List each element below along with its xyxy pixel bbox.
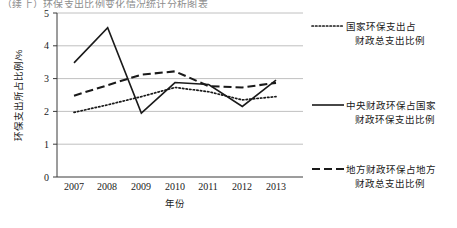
y-tick-label: 1 bbox=[44, 139, 49, 150]
legend: 国家环保支出占 财政总支出比例 中央财政环保占国家 财政环保支出比例 地方财政环… bbox=[312, 21, 436, 189]
x-tick-label: 2010 bbox=[165, 181, 185, 192]
y-tick-label: 2 bbox=[44, 106, 49, 117]
series-line-national-share bbox=[74, 87, 276, 112]
series-lines bbox=[74, 28, 276, 113]
legend-label-line1: 地方财政环保占地方 bbox=[346, 164, 436, 175]
x-tick-label: 2008 bbox=[97, 181, 117, 192]
x-tick-label: 2013 bbox=[266, 181, 286, 192]
x-tick-label: 2007 bbox=[64, 181, 84, 192]
y-tick-label: 4 bbox=[44, 40, 49, 51]
y-tick-label: 0 bbox=[44, 172, 49, 183]
legend-label-line2: 财政环保支出比例 bbox=[355, 114, 435, 125]
x-tick-label: 2012 bbox=[232, 181, 252, 192]
y-tick-label: 3 bbox=[44, 73, 49, 84]
gridlines bbox=[57, 13, 303, 144]
chart-figure: （续上）环保支出比例变化情况统计分析图表 5 4 3 2 1 bbox=[0, 0, 457, 228]
legend-label-line2: 财政总支出比例 bbox=[355, 178, 425, 189]
x-tick-label: 2011 bbox=[198, 181, 218, 192]
legend-label-line1: 国家环保支出占 bbox=[346, 21, 416, 32]
legend-label-line1: 中央财政环保占国家 bbox=[346, 100, 436, 111]
axes bbox=[53, 13, 303, 177]
legend-label-line2: 财政总支出比例 bbox=[355, 35, 425, 46]
x-tick-label: 2009 bbox=[131, 181, 151, 192]
y-tick-label: 5 bbox=[44, 8, 49, 19]
y-axis-title: 环保支出所占比例/% bbox=[13, 49, 24, 141]
line-chart-svg: 5 4 3 2 1 0 2007 2008 2009 2010 2011 201… bbox=[0, 0, 457, 228]
x-axis-title: 年份 bbox=[165, 198, 185, 209]
y-tick-labels: 5 4 3 2 1 0 bbox=[44, 8, 49, 183]
x-tick-labels: 2007 2008 2009 2010 2011 2012 2013 bbox=[64, 181, 286, 192]
